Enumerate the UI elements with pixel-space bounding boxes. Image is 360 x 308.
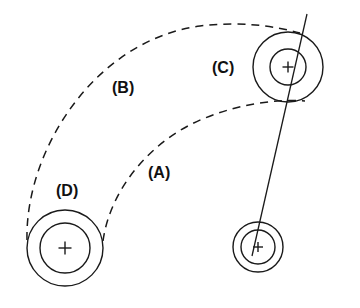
belt-path-b xyxy=(27,24,300,240)
pulley-c-center-crosshair-icon xyxy=(283,62,294,73)
pulley-c-group xyxy=(253,32,323,102)
label-d: (D) xyxy=(56,182,78,199)
diagram-root: (A) (B) (C) (D) xyxy=(0,0,360,308)
pulley-d-center-crosshair-icon xyxy=(59,242,72,255)
diagram-canvas: (A) (B) (C) (D) xyxy=(0,0,360,308)
pulley-d-group xyxy=(27,210,103,286)
center-link-line xyxy=(252,14,307,256)
label-b: (B) xyxy=(112,79,134,96)
label-c: (C) xyxy=(212,59,234,76)
belt-path-a xyxy=(103,101,305,241)
pulley-small-lower-group xyxy=(233,222,283,272)
label-a: (A) xyxy=(148,164,170,181)
